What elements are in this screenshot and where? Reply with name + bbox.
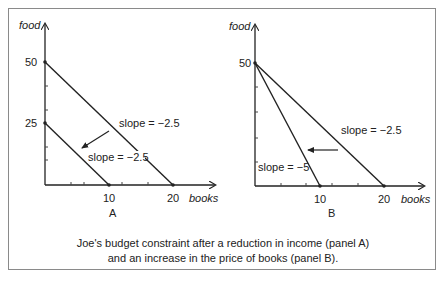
panel-a: food 50 25 10 20 books A slope = −2.5 sl…	[19, 19, 219, 219]
y-tick-label-25: 25	[25, 117, 37, 129]
slope-annotation-reduced: slope = −2.5	[88, 151, 149, 163]
x-tick-label-20: 20	[167, 192, 179, 204]
panel-b: food 50 10 20 books B slope = −2.5 slope…	[229, 20, 431, 219]
y-tick-label-50: 50	[25, 56, 37, 68]
x-axis-label: books	[189, 192, 219, 204]
slope-annotation-original: slope = −2.5	[119, 117, 180, 129]
caption-line-2: and an increase in the price of books (p…	[0, 251, 446, 266]
shift-arrow	[82, 131, 109, 148]
x-axis-label: books	[401, 193, 431, 205]
panel-label-a: A	[109, 207, 117, 219]
y-axis-label: food	[229, 20, 251, 32]
x-tick-label-10: 10	[103, 192, 115, 204]
panel-label-b: B	[328, 207, 335, 219]
x-tick-label-10: 10	[314, 193, 326, 205]
slope-annotation-original: slope = −2.5	[341, 124, 402, 136]
figure-caption: Joe's budget constraint after a reductio…	[0, 236, 446, 266]
caption-line-1: Joe's budget constraint after a reductio…	[0, 236, 446, 251]
x-tick-label-20: 20	[378, 193, 390, 205]
y-tick-label-50: 50	[239, 57, 251, 69]
y-axis-label: food	[19, 19, 41, 31]
slope-annotation-new: slope = −5	[258, 161, 309, 173]
